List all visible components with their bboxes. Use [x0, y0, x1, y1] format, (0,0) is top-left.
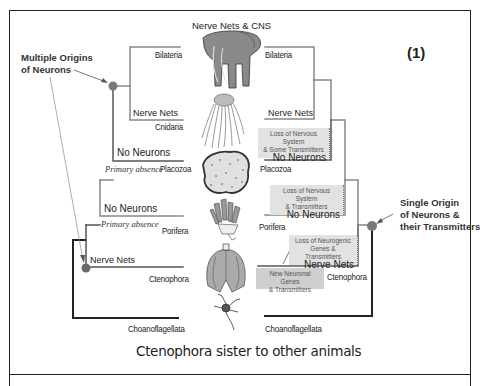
left-taxon-bilateria: Bilateria	[155, 50, 182, 60]
left-note-porifera: Primary absence	[101, 219, 159, 229]
left-annotation-line2: of Neurons	[21, 64, 93, 76]
right-state-nerve-nets: Nerve Nets	[268, 108, 313, 118]
right-state-porifera: No Neurons	[273, 211, 340, 219]
gain-line2: & Transmitters	[259, 286, 321, 294]
left-taxon-choanoflagellata: Choanoflagellata	[128, 324, 185, 334]
comb-jelly-icon	[207, 244, 245, 292]
left-state-placozoa: No Neurons	[117, 147, 170, 158]
elephant-icon	[203, 31, 261, 88]
right-annotation: Single Origin of Neurons & their Transmi…	[400, 197, 480, 233]
right-annotation-line1: Single Origin	[400, 197, 480, 209]
gain-line1: New Neuronal Genes	[259, 270, 321, 286]
right-taxon-ctenophora: Ctenophora	[327, 272, 367, 282]
jellyfish-icon	[202, 94, 244, 148]
right-loss-box-placozoa: Loss of Nervous System & Some Transmitte…	[258, 128, 330, 158]
left-taxon-ctenophora: Ctenophora	[149, 274, 189, 284]
figure-caption: Ctenophora sister to other animals	[136, 343, 361, 359]
sponge-icon	[210, 199, 240, 240]
right-state-placozoa: No Neurons	[261, 154, 326, 162]
left-taxon-placozoa: Placozoa	[160, 164, 191, 174]
left-taxon-cnidaria: Cnidaria	[155, 122, 183, 132]
left-state-porifera: No Neurons	[104, 203, 157, 214]
right-taxon-bilateria: Bilateria	[265, 50, 292, 60]
right-taxon-porifera: Porifera	[259, 222, 285, 232]
left-state-ctenophora: Nerve Nets	[90, 255, 135, 265]
left-annotation: Multiple Origins of Neurons	[21, 52, 93, 76]
right-taxon-placozoa: Placozoa	[260, 164, 291, 174]
left-annotation-line1: Multiple Origins	[21, 52, 93, 64]
left-taxon-porifera: Porifera	[162, 226, 188, 236]
right-annotation-line3: their Transmitters	[400, 221, 480, 233]
right-gain-box-ctenophora: New Neuronal Genes & Transmitters	[256, 268, 324, 289]
right-annotation-line2: of Neurons &	[400, 209, 480, 221]
loss-line1: Loss of Nervous System	[273, 187, 340, 203]
right-loss-box-porifera: Loss of Nervous System & Transmitters No…	[270, 185, 344, 215]
left-state-cnidaria: Nerve Nets	[133, 108, 178, 118]
loss-line1: Loss of Nervous System	[261, 130, 326, 146]
top-label: Nerve Nets & CNS	[192, 20, 271, 31]
right-loss-box-ctenophora: Loss of Neurogenic Genes & Transmitters …	[289, 235, 358, 265]
placozoan-icon	[203, 152, 249, 193]
panel-number: (1)	[407, 44, 425, 61]
loss-line1: Loss of Neurogenic	[292, 237, 354, 245]
left-note-placozoa: Primary absence	[105, 164, 163, 174]
choanoflagellate-icon	[214, 294, 240, 330]
right-taxon-choanoflagellata: Choanoflagellata	[265, 324, 322, 334]
